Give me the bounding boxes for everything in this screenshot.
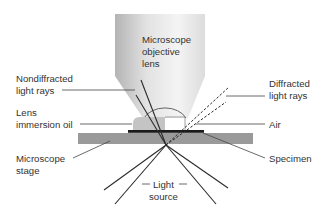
microscope-diagram: Microscope objective lens Nondiffracted …: [0, 0, 335, 216]
label-stage: Microscope stage: [16, 153, 68, 176]
label-light-source: Light source: [149, 179, 178, 202]
specimen-slide: [128, 130, 204, 133]
label-air: Air: [269, 119, 282, 130]
label-specimen: Specimen: [269, 153, 312, 164]
label-oil: Lens immersion oil: [16, 107, 73, 130]
objective-lens-body: [115, 14, 205, 118]
label-nondiffracted: Nondiffracted light rays: [16, 73, 76, 96]
label-diffracted: Diffracted light rays: [269, 78, 313, 101]
air-gap: [165, 117, 185, 130]
immersion-oil: [133, 117, 165, 130]
